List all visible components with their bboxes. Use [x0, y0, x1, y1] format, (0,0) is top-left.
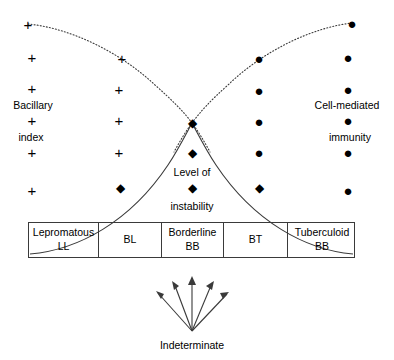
bacillary-index-label-line1: Bacillary	[13, 99, 53, 111]
dot-marker: ●	[347, 16, 356, 31]
table-cell-top-label: Tuberculoid	[295, 226, 349, 240]
table-cell-bottom-label: BB	[185, 240, 199, 254]
table-cell-tuberculoid: Tuberculoid BB	[288, 223, 356, 257]
table-cell-top-label: Lepromatous	[33, 226, 94, 240]
indeterminate-arrows	[158, 278, 227, 331]
table-cell-bottom-label: BB	[315, 240, 329, 254]
diamond-marker: ◆	[116, 182, 125, 194]
diamond-marker: ◆	[188, 147, 197, 159]
dot-marker: ●	[343, 183, 352, 198]
dot-marker: ●	[254, 51, 263, 66]
instability-label-line2: instability	[170, 200, 213, 212]
table-cell-top-label: Borderline	[169, 226, 217, 240]
table-cell-bottom-label: BL	[124, 233, 137, 247]
plus-marker: +	[115, 113, 124, 128]
instability-label-line1: Level of	[174, 166, 211, 178]
leprosy-spectrum-diagram: + + + + + + + + + + ● ● ● ● ● ● ● ● ● ● …	[0, 0, 394, 360]
plus-marker: +	[24, 17, 33, 32]
dot-marker: ●	[254, 83, 263, 98]
diamond-marker: ◆	[188, 117, 197, 129]
dot-marker: ●	[254, 114, 263, 129]
cell-mediated-immunity-label-line2: immunity	[329, 131, 371, 143]
table-cell-bottom-label: LL	[58, 240, 70, 254]
diamond-marker: ◆	[188, 182, 197, 194]
plus-marker: +	[118, 51, 127, 66]
plus-marker: +	[28, 81, 37, 96]
diamond-marker: ◆	[255, 182, 264, 194]
dot-marker: ●	[343, 50, 352, 65]
table-cell-bottom-label: BT	[249, 233, 262, 247]
table-cell-bl: BL	[99, 223, 161, 257]
plus-marker: +	[28, 113, 37, 128]
classification-table: Lepromatous LL BL Borderline BB BT Tuber…	[28, 222, 355, 258]
dot-marker: ●	[343, 113, 352, 128]
cell-mediated-immunity-label-line1: Cell-mediated	[315, 99, 380, 111]
plus-marker: +	[28, 145, 37, 160]
table-cell-bt: BT	[224, 223, 287, 257]
indeterminate-label: Indeterminate	[160, 339, 224, 351]
plus-marker: +	[28, 183, 37, 198]
dot-marker: ●	[343, 82, 352, 97]
diagram-vector-layer	[0, 0, 394, 360]
table-cell-lepromatous: Lepromatous LL	[29, 223, 98, 257]
plus-marker: +	[28, 50, 37, 65]
plus-marker: +	[115, 82, 124, 97]
bacillary-index-label-line2: index	[18, 131, 43, 143]
plus-marker: +	[115, 145, 124, 160]
table-cell-borderline-bb: Borderline BB	[162, 223, 223, 257]
dot-marker: ●	[254, 145, 263, 160]
dot-marker: ●	[343, 145, 352, 160]
